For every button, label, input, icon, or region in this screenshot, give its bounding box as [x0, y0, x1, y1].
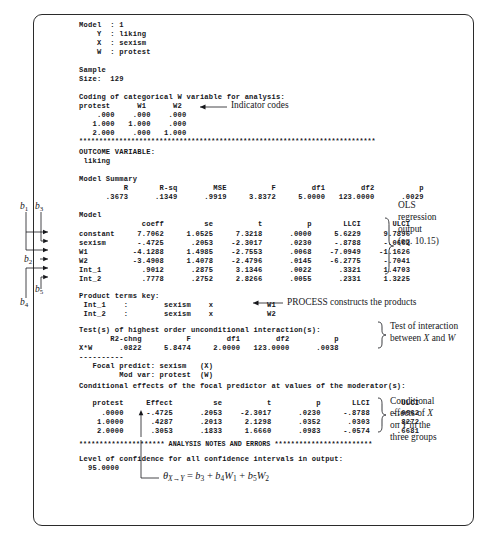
annotation-ols-line2: regression: [398, 212, 437, 224]
coeff-row-constant: constant 7.7062 1.0525 7.3218 .0000 5.62…: [79, 230, 410, 239]
b1-label: b1: [20, 200, 28, 212]
coeff-row-int2: Int_2 .7778 .2752 2.8266 .0055 .2331 1.3…: [79, 275, 410, 284]
annotation-cond-effects-line4: three groups: [390, 432, 437, 444]
annotation-ols-line3: output: [398, 224, 422, 236]
output-model-summary: OUTCOME VARIABLE: liking Model Summary R…: [79, 148, 424, 220]
output-separator-analysis-notes: ********************* ANALYSIS NOTES AND…: [79, 440, 372, 449]
figure-page: Model : 1 Y : liking X : sexism W : prot…: [0, 0, 492, 547]
annotation-ols-line1: OLS: [398, 200, 416, 212]
annotation-cond-effects-line3: on Y in the: [390, 420, 430, 432]
annotation-cond-effects-line1: Conditional: [390, 396, 434, 408]
var-W-test: W: [448, 333, 456, 343]
output-coeff-header: coeff se t p LLCI ULCI: [79, 220, 410, 229]
annotation-test-interaction-line1: Test of interaction: [390, 321, 458, 333]
var-X-cond: X: [427, 408, 433, 418]
annotation-cond-effects-line2: effects of X: [390, 408, 433, 420]
output-conditional-effects-heading: Conditional effects of the focal predict…: [79, 382, 406, 391]
annotation-ols-line4: (eq. 10.15): [398, 236, 439, 248]
coeff-row-w1: W1 -4.1288 1.4985 -2.7553 .0068 -7.0949 …: [79, 248, 410, 257]
annotation-test-interaction-line2: between X and W: [390, 333, 455, 345]
b4-label: b4: [20, 296, 28, 308]
annotation-process-products: PROCESS constructs the products: [287, 297, 416, 309]
output-product-terms-key: Product terms key: Int_1 : sexism x W1 I…: [79, 292, 276, 319]
b2-label: b2: [24, 253, 32, 265]
coeff-row-sexism: sexism -.4725 .2053 -2.3017 .0230 -.8788…: [79, 239, 410, 248]
conditional-effect-equation: θX→Y = b3 + b4W1 + b5W2: [163, 470, 269, 483]
annotation-indicator-codes: Indicator codes: [231, 100, 289, 112]
b3-label: b3: [35, 200, 43, 212]
coeff-row-w2: W2 -3.4908 1.4078 -2.4796 .0145 -6.2775 …: [79, 257, 410, 266]
output-separator-stars-top: ****************************************…: [79, 137, 376, 146]
output-interaction-test: Test(s) of highest order unconditional i…: [79, 326, 339, 380]
b5-label: b5: [35, 283, 43, 295]
cond-effects-row-1: 1.0000 .4287 .2013 2.1298 .0352 .0303 .8…: [79, 418, 419, 427]
coeff-row-int1: Int_1 .9012 .2875 3.1346 .0022 .3321 1.4…: [79, 266, 410, 275]
cond-effects-row-2: 2.0000 .3053 .1833 1.6660 .0983 -.0574 .…: [79, 427, 419, 436]
output-model-spec: Model : 1 Y : liking X : sexism W : prot…: [79, 21, 285, 138]
cond-effects-header: protest Effect se t p LLCI ULCI: [79, 399, 419, 408]
cond-effects-row-0: .0000 -.4725 .2053 -2.3017 .0230 -.8788 …: [79, 409, 419, 418]
